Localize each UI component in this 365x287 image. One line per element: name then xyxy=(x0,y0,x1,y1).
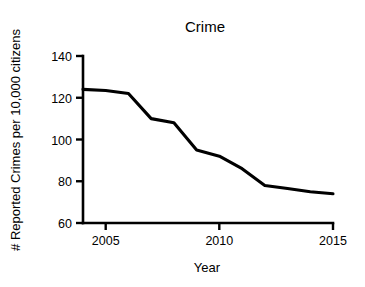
crime-line-chart: Crime # Reported Crimes per 10,000 citiz… xyxy=(0,0,365,287)
x-tick-label-2010: 2010 xyxy=(205,234,233,248)
y-tick-label-140: 140 xyxy=(51,50,72,64)
chart-title: Crime xyxy=(185,18,225,35)
x-axis-title: Year xyxy=(194,260,221,275)
x-tick-label-2005: 2005 xyxy=(92,234,120,248)
x-tick-label-2015: 2015 xyxy=(319,234,347,248)
chart-figure: Crime # Reported Crimes per 10,000 citiz… xyxy=(0,0,365,287)
crime-data-line xyxy=(83,89,333,193)
x-axis-tick-labels: 2005 2010 2015 xyxy=(92,234,347,248)
y-tick-label-80: 80 xyxy=(58,175,72,189)
y-axis-tick-labels: 140 120 100 80 60 xyxy=(51,50,72,231)
y-tick-label-60: 60 xyxy=(58,217,72,231)
y-tick-label-120: 120 xyxy=(51,92,72,106)
y-axis-title: # Reported Crimes per 10,000 citizens xyxy=(8,29,23,251)
y-tick-label-100: 100 xyxy=(51,134,72,148)
